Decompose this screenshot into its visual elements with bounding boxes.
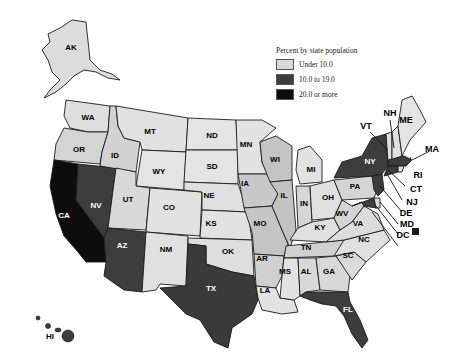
label-in: IN: [300, 199, 308, 208]
state-ms: [280, 258, 300, 300]
label-ak: AK: [65, 43, 77, 52]
label-nc: NC: [358, 235, 370, 244]
label-va: VA: [353, 219, 364, 228]
label-pa: PA: [350, 182, 361, 191]
label-ms: MS: [279, 267, 292, 276]
label-nh: NH: [384, 108, 397, 118]
label-ga: GA: [323, 267, 335, 276]
label-nj: NJ: [406, 197, 418, 207]
label-ny: NY: [364, 157, 376, 166]
state-hi: [36, 316, 74, 342]
label-ca: CA: [58, 211, 70, 220]
label-tn: TN: [301, 243, 312, 252]
legend-item-under-10: Under 10.0: [276, 59, 357, 70]
label-oh: OH: [322, 193, 334, 202]
label-mt: MT: [144, 127, 156, 136]
label-md: MD: [400, 219, 414, 229]
label-mo: MO: [254, 219, 267, 228]
label-co: CO: [163, 203, 175, 212]
label-ut: UT: [123, 195, 134, 204]
label-wi: WI: [270, 155, 280, 164]
label-dc: DC: [397, 230, 410, 240]
state-me: [398, 96, 426, 156]
state-nm: [142, 232, 188, 292]
legend-label: 10.0 to 19.0: [299, 75, 335, 84]
label-vt: VT: [360, 121, 372, 131]
state-az: [104, 228, 146, 292]
state-ri: [398, 166, 404, 172]
label-az: AZ: [117, 241, 128, 250]
legend-label: Under 10.0: [299, 60, 333, 69]
state-fl: [300, 292, 368, 348]
label-wy: WY: [153, 167, 167, 176]
label-il: IL: [280, 191, 287, 200]
legend-swatch-dark: [276, 74, 294, 85]
label-ky: KY: [314, 223, 326, 232]
label-ok: OK: [222, 247, 234, 256]
legend-swatch-black: [276, 89, 294, 100]
label-wv: WV: [336, 209, 350, 218]
map-legend: Percent by state population Under 10.0 1…: [276, 46, 357, 104]
label-fl: FL: [343, 305, 353, 314]
label-sd: SD: [206, 162, 217, 171]
label-ct: CT: [410, 184, 422, 194]
legend-item-20-plus: 20.0 or more: [276, 89, 357, 100]
label-ar: AR: [256, 254, 268, 263]
label-de: DE: [400, 208, 413, 218]
label-ri: RI: [414, 170, 423, 180]
label-ia: IA: [241, 179, 249, 188]
legend-item-10-19: 10.0 to 19.0: [276, 74, 357, 85]
label-id: ID: [111, 151, 119, 160]
state-ny: [334, 134, 388, 178]
state-ak: [42, 20, 120, 98]
label-la: LA: [260, 286, 271, 295]
label-sc: SC: [342, 251, 353, 260]
us-choropleth-map: AK WA OR ID MT WY UT CO NV CA AZ NM ND S…: [0, 0, 452, 363]
legend-title: Percent by state population: [276, 46, 357, 55]
label-ma: MA: [425, 144, 439, 154]
label-wa: WA: [82, 113, 95, 122]
label-mi: MI: [307, 165, 316, 174]
label-tx: TX: [206, 284, 217, 293]
label-al: AL: [301, 267, 312, 276]
label-or: OR: [73, 145, 85, 154]
label-nd: ND: [206, 131, 218, 140]
label-nm: NM: [160, 245, 173, 254]
label-ks: KS: [205, 219, 217, 228]
label-mn: MN: [240, 140, 253, 149]
label-hi: HI: [46, 332, 54, 341]
label-nv: NV: [90, 201, 102, 210]
legend-swatch-light: [276, 59, 294, 70]
label-ne: NE: [203, 191, 215, 200]
legend-label: 20.0 or more: [299, 90, 338, 99]
label-me: ME: [399, 115, 413, 125]
